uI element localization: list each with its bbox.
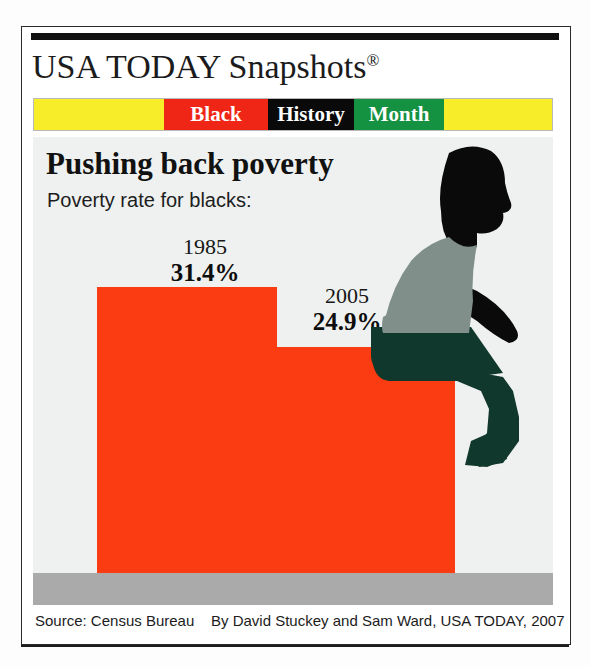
chart-headline: Pushing back poverty — [46, 146, 334, 182]
head-shape — [440, 146, 511, 249]
top-rule — [31, 33, 559, 40]
banner-segment-history-word: History — [268, 99, 354, 130]
value-label-1985: 31.4% — [149, 259, 261, 287]
chart-subhead: Poverty rate for blacks: — [47, 189, 252, 212]
thigh-shape — [371, 327, 503, 377]
year-label-1985: 1985 — [149, 234, 261, 259]
black-history-month-banner: Black History Month — [33, 98, 553, 131]
registered-trademark-icon: ® — [366, 51, 379, 70]
source-bar: Source: Census Bureau By David Stuckey a… — [33, 609, 553, 637]
source-text: Source: Census Bureau — [35, 612, 194, 629]
masthead: USA TODAY Snapshots® — [32, 44, 552, 90]
credit-text: By David Stuckey and Sam Ward, USA TODAY… — [211, 612, 565, 629]
chart-panel: Pushing back poverty Poverty rate for bl… — [33, 137, 553, 605]
bar-1985 — [97, 287, 277, 573]
banner-segment-black-word: Black — [164, 99, 268, 130]
masthead-title: USA TODAY Snapshots — [32, 48, 366, 85]
banner-segment-yellow-left — [34, 99, 164, 130]
snapshot-page: USA TODAY Snapshots® Black History Month… — [0, 0, 591, 667]
banner-segment-yellow-right — [444, 99, 552, 130]
banner-segment-month-word: Month — [354, 99, 444, 130]
data-label-1985: 1985 31.4% — [149, 234, 261, 287]
sleeve-shape — [382, 307, 413, 333]
floor-strip — [33, 573, 553, 605]
seated-man-silhouette-icon — [353, 141, 553, 473]
bottom-rule — [21, 645, 569, 647]
